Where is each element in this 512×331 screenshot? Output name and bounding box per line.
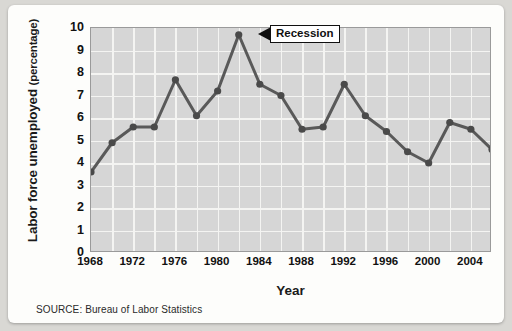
data-point-1994 <box>362 112 369 119</box>
data-point-1976 <box>172 76 179 83</box>
y-tick-5: 5 <box>77 133 84 147</box>
x-axis-tick-labels: 1968 1972 1976 1980 1984 1988 1992 1996 … <box>8 255 504 275</box>
data-point-1980 <box>214 87 221 94</box>
x-tick-1992: 1992 <box>330 255 356 267</box>
recession-annotation: Recession <box>258 25 340 43</box>
y-tick-2: 2 <box>77 200 84 214</box>
data-point-2002 <box>446 119 453 126</box>
plot-area <box>90 27 491 252</box>
x-tick-1968: 1968 <box>77 255 103 267</box>
data-point-1990 <box>320 123 327 130</box>
data-point-1992 <box>341 81 348 88</box>
data-point-1978 <box>193 112 200 119</box>
chart-page: Labor force unemployed (percentage) 10 9… <box>0 0 512 331</box>
x-axis-title: Year <box>90 283 491 298</box>
y-tick-7: 7 <box>77 88 84 102</box>
data-point-1974 <box>151 123 158 130</box>
y-tick-10: 10 <box>70 20 84 34</box>
unemployment-line-series <box>91 28 491 252</box>
y-tick-8: 8 <box>77 65 84 79</box>
data-point-1982 <box>235 31 242 38</box>
series-markers <box>91 31 491 175</box>
data-point-1986 <box>277 92 284 99</box>
x-tick-1984: 1984 <box>246 255 272 267</box>
chart-paper-card: Labor force unemployed (percentage) 10 9… <box>8 5 504 323</box>
data-point-1972 <box>130 123 137 130</box>
x-tick-1976: 1976 <box>162 255 188 267</box>
data-point-1998 <box>404 148 411 155</box>
recession-label: Recession <box>270 25 340 43</box>
source-note: SOURCE: Bureau of Labor Statistics <box>36 304 202 315</box>
x-tick-1988: 1988 <box>288 255 314 267</box>
x-tick-1972: 1972 <box>119 255 145 267</box>
x-tick-2000: 2000 <box>415 255 441 267</box>
y-tick-3: 3 <box>77 178 84 192</box>
y-tick-9: 9 <box>77 43 84 57</box>
x-tick-2004: 2004 <box>457 255 483 267</box>
data-point-1984 <box>256 81 263 88</box>
data-point-2000 <box>425 159 432 166</box>
x-tick-1996: 1996 <box>373 255 399 267</box>
y-axis-title-main: Labor force unemployed <box>25 89 40 242</box>
y-tick-4: 4 <box>77 155 84 169</box>
y-axis-title-unit: (percentage) <box>27 19 39 86</box>
y-tick-1: 1 <box>77 223 84 237</box>
data-point-1996 <box>383 128 390 135</box>
x-tick-1980: 1980 <box>204 255 230 267</box>
series-line-path <box>91 35 491 172</box>
data-point-1970 <box>109 139 116 146</box>
data-point-2004 <box>467 126 474 133</box>
data-point-1988 <box>298 126 305 133</box>
y-axis-title: Labor force unemployed (percentage) <box>25 11 40 251</box>
y-tick-6: 6 <box>77 110 84 124</box>
